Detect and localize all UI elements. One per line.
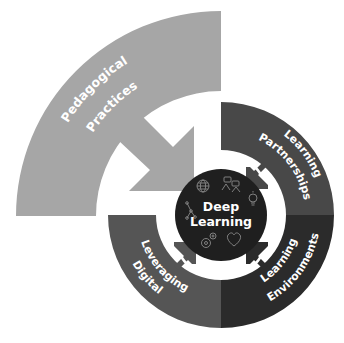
deep-learning-center: Deep Learning bbox=[175, 169, 267, 261]
center-label-line2: Learning bbox=[190, 214, 252, 229]
deep-learning-framework-diagram: Pedagogical Practices Learning Partnersh… bbox=[0, 0, 344, 343]
center-label-line1: Deep bbox=[203, 199, 239, 214]
